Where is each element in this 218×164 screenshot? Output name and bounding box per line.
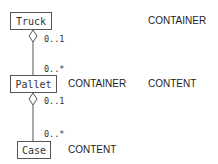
multiplicity-case: 0..*	[44, 129, 64, 139]
aggregation-diamond-icon	[29, 30, 37, 42]
class-pallet: Pallet	[10, 75, 57, 93]
multiplicity-truck: 0..1	[44, 34, 64, 44]
role-pallet-container: CONTAINER	[68, 78, 126, 89]
role-truck-container: CONTAINER	[148, 15, 206, 26]
multiplicity-pallet-whole: 0..1	[44, 96, 64, 106]
role-case-content: CONTENT	[68, 144, 116, 155]
class-truck: Truck	[10, 12, 52, 30]
role-pallet-content: CONTENT	[148, 78, 196, 89]
class-case: Case	[17, 141, 51, 159]
multiplicity-pallet: 0..*	[44, 64, 64, 74]
aggregation-diamond-icon	[29, 93, 37, 105]
